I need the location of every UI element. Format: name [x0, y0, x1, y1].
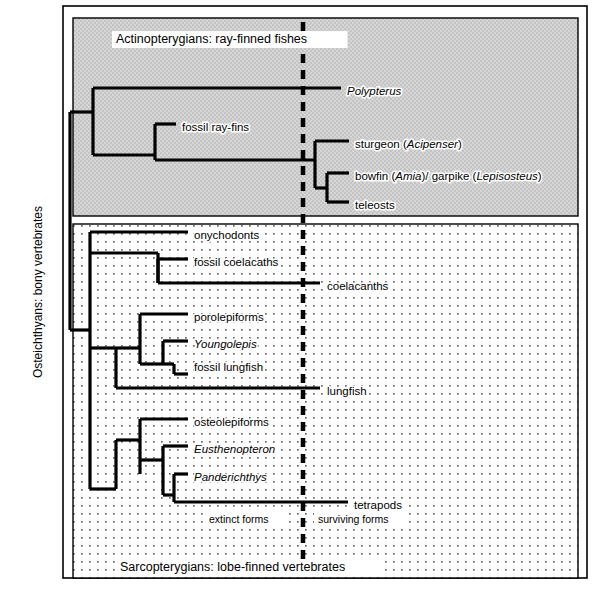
taxon-label: PanderichthysPanderichthys [194, 471, 267, 483]
vertical-axis-label-text: Osteichthyans: bony vertebrates [31, 206, 45, 378]
panel-caption-sarcopterygians: Sarcopterygians: lobe-finned vertebrates [116, 559, 384, 576]
taxon-label: teleoststeleosts [355, 199, 395, 211]
vertical-axis-label: Osteichthyans: bony vertebrates [31, 206, 45, 378]
caption-text: Actinopterygians: ray-finned fishes [116, 32, 307, 46]
taxon-label: PolypterusPolypterus [347, 85, 402, 97]
taxon-label: porolepiformsporolepiforms [194, 311, 264, 323]
panel-caption-actinopterygians: Actinopterygians: ray-finned fishes [112, 31, 348, 48]
taxon-label: bowfin (Amia)/ garpike (Lepisosteus)bowf… [355, 170, 542, 182]
taxon-label: fossil ray-finsfossil ray-fins [182, 121, 249, 133]
taxon-label: tetrapodstetrapods [354, 499, 402, 511]
taxon-label-text: porolepiforms [194, 311, 264, 323]
taxon-label-text: osteolepiforms [194, 416, 269, 428]
taxon-label: onychodontsonychodonts [194, 229, 259, 241]
taxon-label: osteolepiformsosteolepiforms [194, 416, 269, 428]
taxon-label-text: Panderichthys [194, 471, 267, 483]
zone-label-text: surviving forms [318, 513, 389, 525]
taxon-label-text: fossil coelacaths [194, 256, 279, 268]
taxon-label-text: tetrapods [354, 499, 402, 511]
taxon-label: coelacanthscoelacanths [327, 280, 389, 292]
taxon-label: lungfishlungfish [327, 385, 367, 397]
taxon-label-text: Youngolepis [194, 338, 257, 350]
taxon-label-text: fossil lungfish [194, 361, 263, 373]
taxon-label: fossil coelacathsfossil coelacaths [194, 256, 279, 268]
taxon-label-text: lungfish [327, 385, 367, 397]
taxon-label-text: fossil ray-fins [182, 121, 249, 133]
zone-label: extinct forms [205, 512, 288, 527]
taxon-label: YoungolepisYoungolepis [194, 338, 257, 350]
caption-text: Sarcopterygians: lobe-finned vertebrates [120, 560, 345, 574]
cladogram-canvas: PolypterusPolypterusfossil ray-finsfossi… [0, 0, 595, 605]
taxon-label-text: sturgeon (Acipenser) [355, 138, 462, 150]
zone-label: surviving forms [314, 512, 409, 527]
zone-label-text: extinct forms [209, 513, 269, 525]
taxon-label-text: coelacanths [327, 280, 389, 292]
taxon-label-text: Eusthenopteron [194, 443, 275, 455]
taxon-label: sturgeon (Acipenser)sturgeon (Acipenser) [355, 138, 462, 150]
cladogram-figure: PolypterusPolypterusfossil ray-finsfossi… [0, 0, 595, 605]
taxon-label-text: bowfin (Amia)/ garpike (Lepisosteus) [355, 170, 542, 182]
taxon-label: fossil lungfishfossil lungfish [194, 361, 263, 373]
taxon-label: EusthenopteronEusthenopteron [194, 443, 275, 455]
taxon-label-text: teleosts [355, 199, 395, 211]
taxon-label-text: Polypterus [347, 85, 402, 97]
taxon-label-text: onychodonts [194, 229, 259, 241]
panel-boxes [73, 18, 578, 578]
